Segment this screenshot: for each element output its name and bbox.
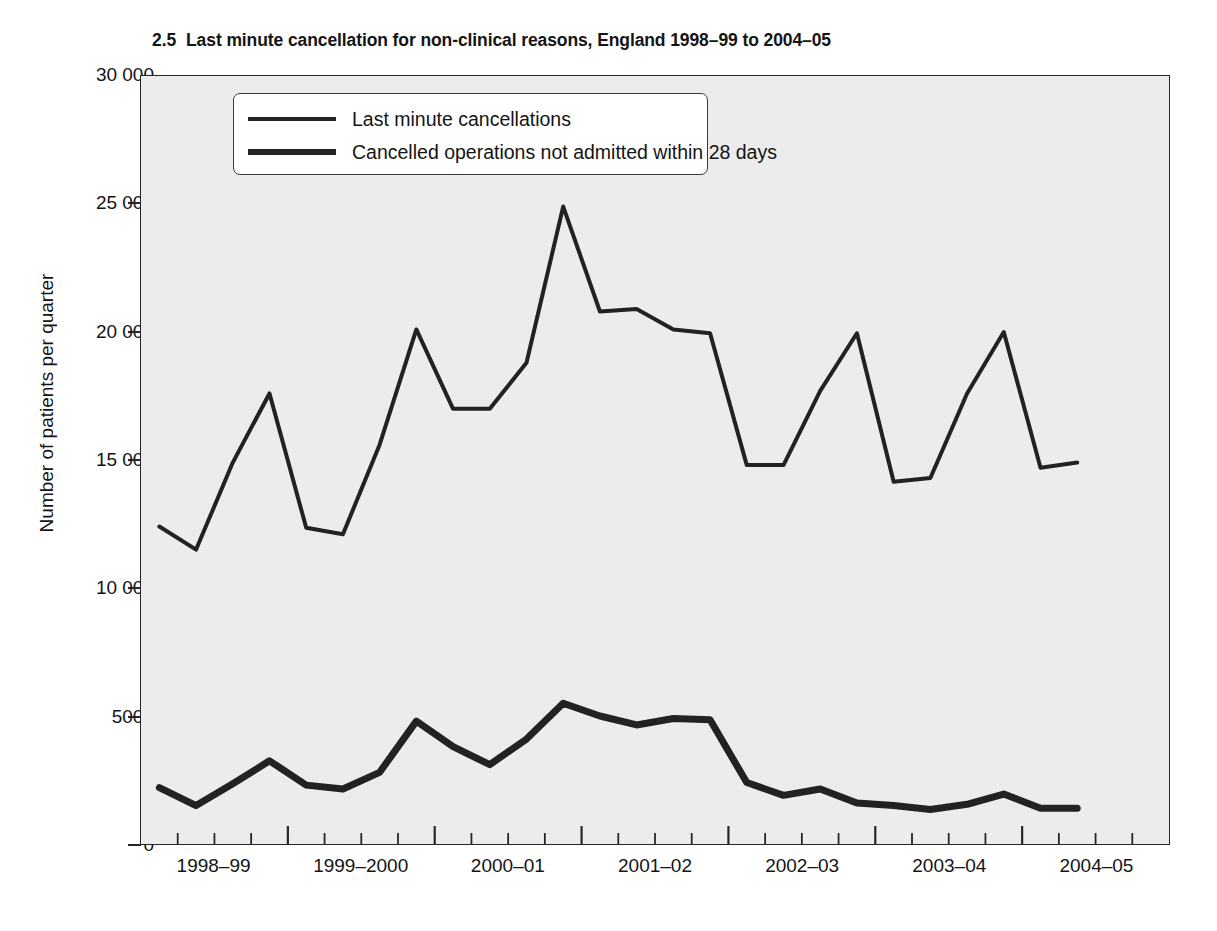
x-axis-tick-label: 2000–01 <box>471 855 545 877</box>
x-axis-tick-label: 2004–05 <box>1059 855 1133 877</box>
legend-item-last-minute-cancellations: Last minute cancellations <box>248 102 571 136</box>
legend-item-cancelled-not-admitted: Cancelled operations not admitted within… <box>248 135 777 169</box>
legend-label: Last minute cancellations <box>352 108 571 131</box>
legend-line-swatch-icon <box>248 117 336 120</box>
plot-area <box>140 75 1170 845</box>
x-axis-tick-label: 1999–2000 <box>313 855 408 877</box>
chart-title-text: Last minute cancellation for non-clinica… <box>186 30 831 50</box>
series-line-cancelled-not-admitted-28-days <box>159 703 1077 809</box>
legend-label: Cancelled operations not admitted within… <box>352 141 777 164</box>
axis-ticks-inner <box>178 826 1133 844</box>
figure-container: 2.5Last minute cancellation for non-clin… <box>0 0 1217 931</box>
x-axis-tick-label: 2001–02 <box>618 855 692 877</box>
legend-line-swatch-icon <box>248 149 336 154</box>
series-line-last-minute-cancellations <box>159 207 1077 550</box>
chart-legend: Last minute cancellations Cancelled oper… <box>233 93 708 175</box>
x-axis-tick-label: 1998–99 <box>177 855 251 877</box>
x-axis-tick-label: 2003–04 <box>912 855 986 877</box>
chart-title: 2.5Last minute cancellation for non-clin… <box>152 30 831 51</box>
chart-number: 2.5 <box>152 30 176 50</box>
series-group <box>159 207 1077 810</box>
x-axis-tick-label: 2002–03 <box>765 855 839 877</box>
plot-svg <box>141 76 1169 844</box>
y-axis-title: Number of patients per quarter <box>36 238 58 568</box>
